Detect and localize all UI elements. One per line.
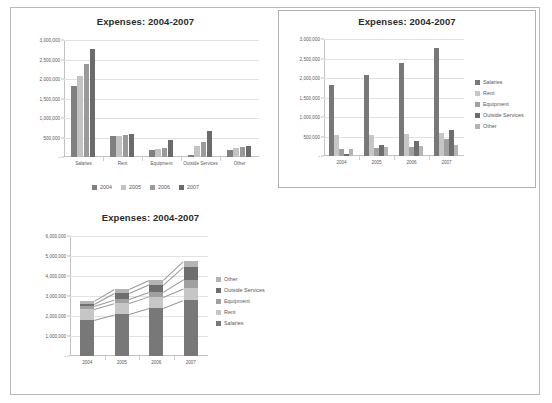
- plot-area: 3,000,0002,500,0002,000,0001,500,0001,00…: [64, 40, 259, 157]
- x-axis-label: Salaries: [64, 161, 103, 166]
- legend-label: Outside Services: [224, 287, 265, 293]
- page-canvas: Expenses: 2004-2007 3,000,0002,500,0002,…: [0, 0, 552, 403]
- legend-label: Equipment: [483, 101, 509, 107]
- stack-segment-equipment-2006: [149, 292, 163, 297]
- stack-segment-outside-services-2005: [115, 293, 129, 299]
- bar-equipment-2007: [444, 139, 449, 156]
- bar-2005-rent: [116, 136, 122, 157]
- legend-item-other[interactable]: Other: [216, 276, 265, 282]
- legend-item-outside-services[interactable]: Outside Services: [475, 112, 524, 118]
- y-tick-mark: [61, 40, 64, 41]
- stack-segment-other-2007: [184, 261, 198, 267]
- x-axis-label: Equipment: [142, 161, 181, 166]
- legend-item-rent[interactable]: Rent: [216, 309, 265, 315]
- y-tick-mark: [321, 97, 324, 98]
- y-tick-label: 3,000,000: [46, 294, 66, 299]
- legend-item-other[interactable]: Other: [475, 123, 524, 129]
- y-tick-mark: [67, 356, 70, 357]
- legend-swatch: [216, 288, 221, 293]
- bar-2005-other: [233, 148, 239, 157]
- bar-equipment-2004: [339, 149, 344, 156]
- stack-segment-outside-services-2004: [80, 304, 94, 305]
- y-tick-label: -: [318, 154, 320, 159]
- legend-swatch: [150, 185, 155, 190]
- bar-other-2004: [349, 149, 354, 156]
- y-tick-mark: [61, 79, 64, 80]
- x-axis-label: 2006: [394, 160, 429, 165]
- y-tick-label: 1,000,000: [300, 115, 320, 120]
- y-tick-mark: [61, 137, 64, 138]
- legend-item-equipment[interactable]: Equipment: [475, 101, 524, 107]
- bar-rent-2005: [369, 135, 374, 156]
- bar-2006-other: [240, 147, 246, 157]
- legend-label: Outside Services: [483, 112, 524, 118]
- x-axis-label: 2007: [429, 160, 464, 165]
- bar-2006-salaries: [84, 64, 90, 157]
- legend-swatch: [475, 102, 480, 107]
- y-tick-label: 2,000,000: [300, 76, 320, 81]
- x-axis-label: 2004: [70, 360, 105, 365]
- legend-item-2004[interactable]: 2004: [92, 184, 112, 190]
- stack-segment-outside-services-2006: [149, 285, 163, 293]
- y-tick-label: 1,500,000: [40, 96, 60, 101]
- stack-segment-outside-services-2007: [184, 267, 198, 280]
- chart-legend: OtherOutside ServicesEquipmentRentSalari…: [216, 276, 265, 326]
- x-axis-label: 2004: [324, 160, 359, 165]
- legend-item-salaries[interactable]: Salaries: [216, 320, 265, 326]
- legend-label: 2006: [158, 184, 170, 190]
- legend-swatch: [179, 185, 184, 190]
- bar-2007-rent: [129, 134, 135, 157]
- legend-swatch: [216, 321, 221, 326]
- bar-other-2005: [384, 147, 389, 156]
- legend-item-equipment[interactable]: Equipment: [216, 298, 265, 304]
- x-axis-label: 2005: [105, 360, 140, 365]
- x-axis-label: 2006: [139, 360, 174, 365]
- chart-legend: 2004200520062007: [28, 184, 263, 190]
- legend-item-rent[interactable]: Rent: [475, 90, 524, 96]
- bar-2006-equipment: [162, 148, 168, 157]
- x-axis-label: Rent: [103, 161, 142, 166]
- chart-panel-clustered-by-year: Expenses: 2004-2007 3,000,0002,500,0002,…: [278, 10, 536, 188]
- stack-segment-equipment-2005: [115, 299, 129, 303]
- legend-item-outside-services[interactable]: Outside Services: [216, 287, 265, 293]
- legend-item-salaries[interactable]: Salaries: [475, 79, 524, 85]
- gridline: [64, 40, 259, 41]
- y-tick-mark: [61, 59, 64, 60]
- x-axis-label: 2007: [174, 360, 209, 365]
- stack-connector-line: [163, 261, 184, 280]
- chart-panel-stacked-by-year: Expenses: 2004-2007 6,000,0005,000,0004,…: [18, 208, 283, 388]
- stack-segment-other-2005: [115, 289, 129, 294]
- stack-segment-other-2004: [80, 301, 94, 305]
- bar-2007-equipment: [168, 140, 174, 157]
- legend-item-2007[interactable]: 2007: [179, 184, 199, 190]
- bar-salaries-2005: [364, 75, 369, 157]
- bar-outside-services-2004: [344, 154, 349, 156]
- y-tick-label: 4,000,000: [46, 274, 66, 279]
- bar-rent-2004: [334, 135, 339, 156]
- legend-item-2006[interactable]: 2006: [150, 184, 170, 190]
- bar-other-2007: [454, 145, 459, 156]
- stack-segment-salaries-2005: [115, 314, 129, 356]
- bar-outside-services-2007: [449, 130, 454, 156]
- y-tick-label: 2,000,000: [46, 314, 66, 319]
- y-tick-mark: [321, 39, 324, 40]
- legend-swatch: [92, 185, 97, 190]
- bar-salaries-2007: [434, 48, 439, 156]
- stack-segment-rent-2005: [115, 303, 129, 314]
- legend-item-2005[interactable]: 2005: [121, 184, 141, 190]
- stack-segment-other-2006: [149, 280, 163, 285]
- legend-label: 2005: [129, 184, 141, 190]
- legend-label: Equipment: [224, 298, 250, 304]
- bar-equipment-2006: [409, 147, 414, 156]
- bar-outside-services-2005: [379, 145, 384, 156]
- legend-swatch: [216, 299, 221, 304]
- legend-label: Rent: [224, 309, 235, 315]
- bar-2005-equipment: [155, 149, 161, 157]
- y-tick-label: 500,000: [303, 134, 320, 139]
- y-tick-mark: [67, 296, 70, 297]
- x-axis-label: Other: [220, 161, 259, 166]
- legend-label: Other: [224, 276, 237, 282]
- legend-swatch: [216, 310, 221, 315]
- legend-label: Other: [483, 123, 496, 129]
- y-tick-mark: [67, 276, 70, 277]
